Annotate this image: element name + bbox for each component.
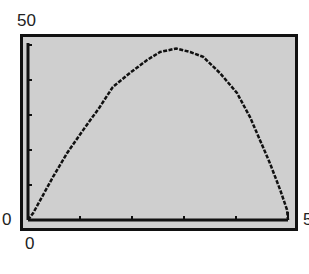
plot-frame xyxy=(22,36,297,230)
chart-plot xyxy=(0,0,309,274)
